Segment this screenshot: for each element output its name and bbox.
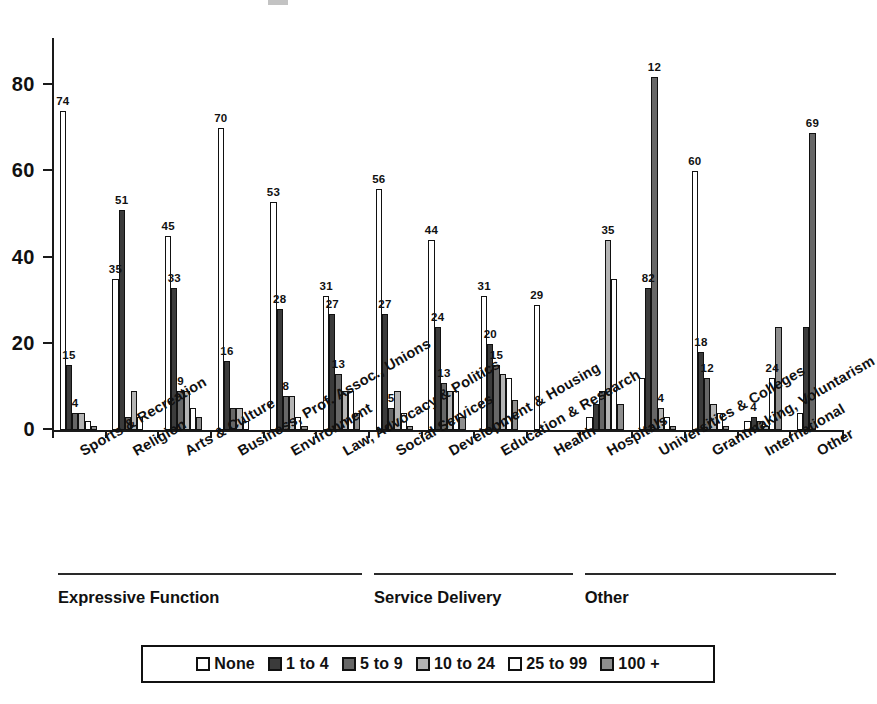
y-axis-tick-label: 40 <box>12 245 35 268</box>
group-bracket-line <box>585 573 836 575</box>
bar-value-label: 82 <box>642 272 655 284</box>
bar <box>670 426 676 430</box>
x-axis-tick <box>263 430 265 438</box>
bar <box>459 417 465 430</box>
bar-value-label: 29 <box>530 289 543 301</box>
bar-value-label: 12 <box>701 362 714 374</box>
chart-legend: None1 to 45 to 910 to 2425 to 99100 + <box>141 645 715 683</box>
y-axis-tick: 40 <box>43 256 54 258</box>
bar-value-label: 28 <box>273 293 286 305</box>
legend-label: 5 to 9 <box>360 655 403 673</box>
x-axis-tick <box>368 430 370 438</box>
bar-value-label: 44 <box>425 224 438 236</box>
bar-value-label: 27 <box>326 298 339 310</box>
bar <box>512 400 518 430</box>
x-axis-line <box>52 430 842 432</box>
bar-value-label: 53 <box>267 186 280 198</box>
bar <box>243 421 249 430</box>
legend-label: 25 to 99 <box>526 655 587 673</box>
bar-value-label: 8 <box>283 380 290 392</box>
bar-value-label: 4 <box>72 397 79 409</box>
y-axis-line <box>52 38 54 432</box>
legend-swatch-icon <box>416 657 430 671</box>
legend-item-list: None1 to 45 to 910 to 2425 to 99100 + <box>196 655 660 673</box>
bar-value-label: 31 <box>477 280 490 292</box>
bar <box>407 426 413 430</box>
group-bracket-label: Expressive Function <box>58 588 219 607</box>
bar-value-label: 15 <box>490 349 503 361</box>
x-axis-tick <box>631 430 633 438</box>
y-axis-tick: 60 <box>43 169 54 171</box>
bar-value-label: 5 <box>388 392 395 404</box>
bar-value-label: 51 <box>115 194 128 206</box>
legend-item: 5 to 9 <box>342 655 403 673</box>
legend-item: 10 to 24 <box>416 655 495 673</box>
bar <box>534 305 540 430</box>
bar <box>617 404 623 430</box>
legend-label: 100 + <box>618 655 659 673</box>
bar <box>119 210 125 430</box>
legend-swatch-icon <box>268 657 282 671</box>
legend-swatch-icon <box>600 657 614 671</box>
bar-value-label: 20 <box>484 328 497 340</box>
bar-value-label: 56 <box>372 173 385 185</box>
x-axis-tick <box>526 430 528 438</box>
legend-swatch-icon <box>342 657 356 671</box>
bar-value-label: 35 <box>109 263 122 275</box>
x-axis-tick <box>579 430 581 438</box>
bar <box>723 426 729 430</box>
y-axis-tick-label: 0 <box>23 418 35 441</box>
x-axis-tick <box>315 430 317 438</box>
bar-value-label: 4 <box>750 401 757 413</box>
y-axis-tick: 80 <box>43 83 54 85</box>
group-bracket-line <box>374 573 573 575</box>
bar <box>137 417 143 430</box>
x-axis-tick <box>210 430 212 438</box>
bar <box>354 413 360 430</box>
x-axis-tick <box>684 430 686 438</box>
legend-item: 25 to 99 <box>508 655 587 673</box>
plot-area: 020406080 741543551453397016532883127135… <box>52 38 842 432</box>
x-axis-tick <box>842 430 844 438</box>
bar-value-label: 31 <box>319 280 332 292</box>
bar-value-label: 16 <box>220 345 233 357</box>
bar-value-label: 24 <box>766 362 779 374</box>
bar-value-label: 74 <box>56 95 69 107</box>
bar <box>809 133 815 430</box>
y-axis-tick-label: 20 <box>12 331 35 354</box>
y-axis-tick-label: 80 <box>12 73 35 96</box>
bar <box>196 417 202 430</box>
x-axis-tick <box>105 430 107 438</box>
bar-value-label: 45 <box>161 220 174 232</box>
group-bracket-line <box>58 573 362 575</box>
group-bracket-label: Service Delivery <box>374 588 502 607</box>
legend-swatch-icon <box>508 657 522 671</box>
legend-item: None <box>196 655 255 673</box>
legend-swatch-icon <box>196 657 210 671</box>
bar <box>651 77 657 431</box>
legend-label: None <box>214 655 255 673</box>
bar-value-label: 60 <box>688 155 701 167</box>
legend-item: 100 + <box>600 655 659 673</box>
group-bracket-label: Other <box>585 588 629 607</box>
x-axis-tick <box>737 430 739 438</box>
bar <box>301 426 307 430</box>
y-axis-tick-label: 60 <box>12 159 35 182</box>
x-axis-tick <box>52 430 54 438</box>
legend-label: 10 to 24 <box>434 655 495 673</box>
y-axis-tick: 20 <box>43 342 54 344</box>
bar-value-label: 33 <box>168 272 181 284</box>
x-axis-tick <box>421 430 423 438</box>
x-axis-tick <box>789 430 791 438</box>
bar-value-label: 35 <box>601 224 614 236</box>
bar-value-label: 69 <box>806 117 819 129</box>
bar-value-label: 70 <box>214 112 227 124</box>
bar-value-label: 12 <box>648 61 661 73</box>
bar-value-label: 18 <box>694 336 707 348</box>
top-edge-artifact <box>268 0 288 5</box>
bar-value-label: 27 <box>378 298 391 310</box>
bar <box>91 426 97 430</box>
bar <box>775 327 781 430</box>
bar-value-label: 4 <box>657 392 664 404</box>
